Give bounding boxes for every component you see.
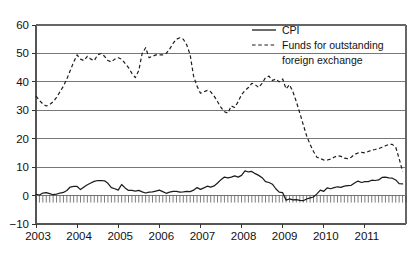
legend-label: CPI [282,24,300,36]
line-chart: −100102030405060 20032004200520062007200… [0,0,419,258]
y-tick-label: 50 [16,47,29,59]
x-axis-tick-labels: 200320042005200620072008200920102011 [25,224,379,242]
chart-legend: CPIFunds for outstandingforeign exchange [252,24,384,66]
y-tick-label: 0 [23,190,29,202]
x-tick-label: 2010 [313,230,339,242]
x-tick-label: 2004 [66,230,92,242]
legend-label: Funds for outstanding [282,39,384,51]
y-tick-label: 40 [16,76,29,88]
y-tick-label: −10 [9,218,29,230]
y-tick-label: 30 [16,104,29,116]
x-tick-label: 2008 [231,230,257,242]
x-tick-label: 2005 [107,230,133,242]
x-tick-label: 2003 [25,230,51,242]
x-tick-label: 2009 [272,230,298,242]
x-tick-label: 2006 [149,230,175,242]
x-tick-label: 2007 [190,230,216,242]
x-tick-label: 2011 [355,230,380,242]
y-tick-label: 60 [16,19,29,31]
y-tick-label: 20 [16,133,29,145]
legend-label: foreign exchange [282,54,363,66]
chart-container: −100102030405060 20032004200520062007200… [0,0,419,258]
y-axis-tick-labels: −100102030405060 [9,19,29,230]
x-axis-monthly-ticks [36,196,406,203]
y-tick-label: 10 [16,161,29,173]
